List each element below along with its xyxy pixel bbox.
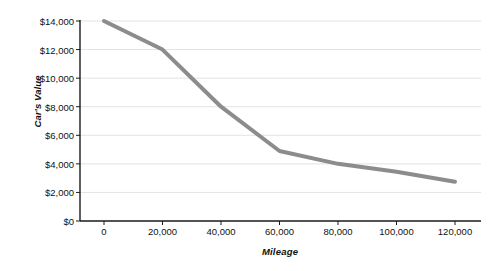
x-axis-tick-label: 120,000 [415,226,493,237]
data-series-line [104,21,455,182]
x-axis-tick-marks [76,21,455,225]
x-axis-title: Mileage [80,246,480,257]
gridlines [80,21,481,192]
car-value-line-chart: Car's Value $0$2,000$4,000$6,000$8,000$1… [0,0,493,271]
x-axis-tick-labels: 020,00040,00060,00080,000100,000120,000 [0,226,493,244]
